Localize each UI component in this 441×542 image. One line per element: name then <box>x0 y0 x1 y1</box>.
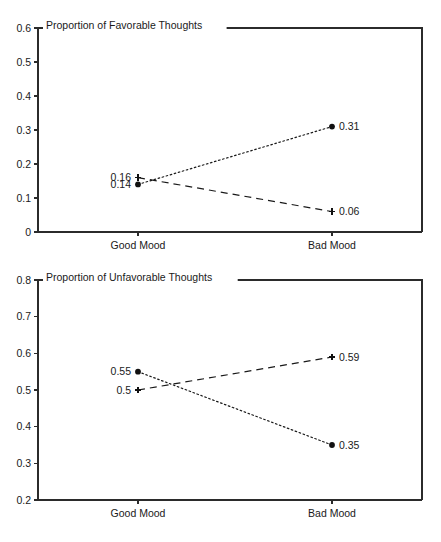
series-line-dotted-circle-series <box>138 127 332 185</box>
x-axis-tick-label-1: Good Mood <box>111 507 166 519</box>
figure-two-panel-line-charts: 00.10.20.30.40.50.6Good MoodBad MoodProp… <box>0 0 441 542</box>
y-axis-tick-label: 0.1 <box>16 192 31 204</box>
x-axis-tick-label-2: Bad Mood <box>308 507 356 519</box>
plot-frame <box>38 28 422 232</box>
chart-title: Proportion of Favorable Thoughts <box>46 19 202 31</box>
y-axis-tick-label: 0.5 <box>16 384 31 396</box>
x-axis-tick-label-1: Good Mood <box>111 239 166 251</box>
y-axis-tick-label: 0.8 <box>16 274 31 286</box>
panel-favorable-thoughts: 00.10.20.30.40.50.6Good MoodBad MoodProp… <box>0 0 441 262</box>
y-axis-tick-label: 0.2 <box>16 494 31 506</box>
y-axis-tick-label: 0.5 <box>16 56 31 68</box>
data-point-label: 0.5 <box>116 384 131 396</box>
data-point-label: 0.31 <box>339 120 360 132</box>
series-line-dotted-circle-series <box>138 372 332 445</box>
marker-circle <box>135 369 141 375</box>
plot-frame <box>38 280 422 500</box>
data-point-group: 0.55 <box>111 365 141 377</box>
data-point-group: 0.5 <box>116 384 141 396</box>
data-point-group: 0.31 <box>329 120 359 132</box>
y-axis-tick-label: 0.3 <box>16 457 31 469</box>
data-point-group: 0.35 <box>329 439 359 451</box>
data-point-label: 0.16 <box>111 171 132 183</box>
chart-title: Proportion of Unfavorable Thoughts <box>46 271 212 283</box>
marker-circle <box>329 442 335 448</box>
series-line-dashed-plus-series <box>138 178 332 212</box>
data-point-label: 0.59 <box>339 351 360 363</box>
series-line-dashed-plus-series <box>138 357 332 390</box>
data-point-group: 0.16 <box>111 171 142 183</box>
y-axis-tick-label: 0.4 <box>16 420 31 432</box>
data-point-label: 0.55 <box>111 365 132 377</box>
y-axis-tick-label: 0.4 <box>16 90 31 102</box>
chart-unfavorable-thoughts: 0.20.30.40.50.60.70.8Good MoodBad MoodPr… <box>0 262 441 520</box>
y-axis-tick-label: 0.7 <box>16 310 31 322</box>
chart-favorable-thoughts: 00.10.20.30.40.50.6Good MoodBad MoodProp… <box>0 0 441 262</box>
marker-circle <box>329 124 335 130</box>
data-point-group: 0.06 <box>329 205 360 217</box>
y-axis-tick-label: 0 <box>25 226 31 238</box>
y-axis-tick-label: 0.6 <box>16 22 31 34</box>
data-point-group: 0.59 <box>329 351 360 363</box>
panel-unfavorable-thoughts: 0.20.30.40.50.60.70.8Good MoodBad MoodPr… <box>0 262 441 520</box>
y-axis-tick-label: 0.6 <box>16 347 31 359</box>
marker-circle <box>135 182 141 188</box>
y-axis-tick-label: 0.2 <box>16 158 31 170</box>
data-point-label: 0.35 <box>339 439 360 451</box>
x-axis-tick-label-2: Bad Mood <box>308 239 356 251</box>
y-axis-tick-label: 0.3 <box>16 124 31 136</box>
data-point-label: 0.06 <box>339 205 360 217</box>
